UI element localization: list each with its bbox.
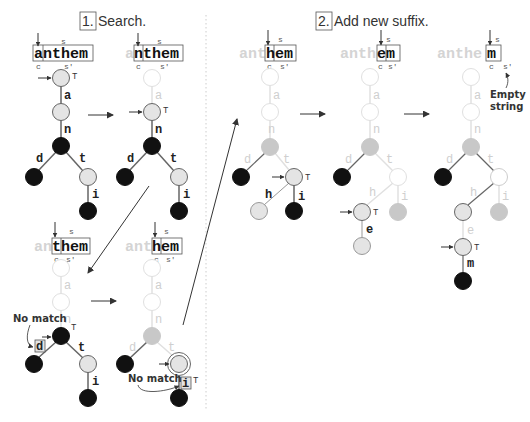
- trie-node: [262, 104, 279, 121]
- edge-label-m: m: [467, 257, 474, 271]
- edge-label-i: i: [92, 188, 99, 202]
- trie-node: [390, 204, 407, 221]
- trie-node: [455, 239, 472, 256]
- active-word: m: [487, 46, 496, 63]
- trie-node: [390, 169, 407, 186]
- trie-node-root: [262, 69, 279, 86]
- active-word: hem: [152, 239, 179, 256]
- edge-label-a: a: [64, 279, 71, 293]
- trie-node-root: [144, 70, 161, 87]
- active-word: hem: [266, 46, 293, 63]
- trie-node-terminal: [26, 356, 43, 373]
- active-word: em: [377, 46, 395, 63]
- edge-label-a: a: [64, 89, 71, 103]
- edge-label-i: i: [182, 377, 189, 391]
- step2-label: Add new suffix.: [334, 13, 429, 29]
- panel-add-3: s anthe m c s' Empty string a n d t h i …: [435, 30, 527, 290]
- s-pointer-label: s: [164, 227, 169, 236]
- panel-search-1: s anthem c s' a n d t i T: [26, 33, 100, 220]
- trie-node-terminal: [80, 203, 97, 220]
- trie-node-new: [251, 203, 268, 220]
- edge-label-n: n: [373, 123, 380, 137]
- trie-node-terminal: [171, 203, 188, 220]
- edge-label-h: h: [470, 186, 477, 200]
- edge-label-a: a: [474, 89, 481, 103]
- consumed-prefix: a: [125, 46, 134, 63]
- edge-label-e: e: [467, 224, 474, 238]
- edge-label-n: n: [155, 123, 162, 137]
- trie-node-root: [362, 69, 379, 86]
- t-pointer-label: T: [373, 208, 379, 218]
- panel-search-3: s an them c s' a n d t i T No match: [13, 222, 99, 407]
- step1-title: 1. Search.: [80, 12, 146, 30]
- active-word: nthem: [134, 46, 179, 63]
- edge-label-e: e: [366, 223, 373, 237]
- trie-node-terminal: [233, 169, 250, 186]
- consumed-prefix: ant: [239, 46, 266, 63]
- consumed-prefix: an: [34, 239, 52, 256]
- trie-node-terminal: [53, 138, 70, 155]
- callout-arrow-icon: [506, 73, 508, 88]
- edge-label-d: d: [446, 153, 453, 167]
- trie-node: [286, 169, 303, 186]
- trie-node-terminal: [286, 203, 303, 220]
- s-prime-pointer-label: s': [503, 62, 513, 71]
- s-pointer-label: s: [386, 35, 391, 44]
- empty-string-note-line1: Empty: [490, 89, 526, 100]
- trie-node: [362, 139, 379, 156]
- step1-label: Search.: [98, 13, 146, 29]
- step2-title: 2. Add new suffix.: [316, 12, 429, 30]
- trie-node-root: [463, 69, 480, 86]
- trie-node: [354, 204, 371, 221]
- trie-node-root: [53, 70, 70, 87]
- trie-node: [491, 204, 508, 221]
- s-prime-pointer-label: s': [160, 62, 170, 71]
- trie-node: [463, 104, 480, 121]
- trie-node: [80, 169, 97, 186]
- edge-label-i: i: [401, 190, 408, 204]
- edge-label-t: t: [78, 341, 85, 355]
- t-pointer-label: T: [474, 243, 480, 253]
- s-prime-pointer-label: s': [166, 255, 176, 264]
- edge-label-a: a: [155, 279, 162, 293]
- trie-node: [455, 204, 472, 221]
- edge-label-a: a: [273, 89, 280, 103]
- t-pointer-label: T: [193, 376, 199, 386]
- t-pointer-label: T: [71, 323, 77, 333]
- edge-label-t: t: [168, 341, 175, 355]
- edge-label-n: n: [155, 313, 162, 327]
- trie-node: [144, 294, 161, 311]
- edge-label-d: d: [129, 341, 136, 355]
- edge-label-d: d: [36, 340, 43, 354]
- edge-label-i: i: [502, 190, 509, 204]
- trie-node-terminal: [144, 138, 161, 155]
- trie-node: [171, 356, 188, 373]
- panel-search-4: s ant hem c s' a n d t i T No match: [117, 222, 200, 407]
- trie-node-terminal: [171, 390, 188, 407]
- panel-search-2: s a nthem c s' a n d t i T: [117, 33, 191, 220]
- edge-label-t: t: [170, 152, 177, 166]
- s-prime-pointer-label: s': [388, 62, 398, 71]
- s-prime-pointer-label: s': [64, 62, 74, 71]
- s-pointer-label: s: [495, 35, 500, 44]
- edge-label-i: i: [298, 190, 305, 204]
- no-match-note: No match: [128, 373, 182, 384]
- trie-node: [262, 139, 279, 156]
- trie-node: [362, 104, 379, 121]
- trie-node-terminal-new: [455, 273, 472, 290]
- edge-label-d: d: [244, 153, 251, 167]
- consumed-prefix: anth: [340, 46, 376, 63]
- edge-label-n: n: [268, 123, 275, 137]
- no-match-note: No match: [13, 313, 67, 324]
- trie-node: [80, 356, 97, 373]
- edge-label-d: d: [127, 152, 134, 166]
- trie-node-terminal: [334, 169, 351, 186]
- t-pointer-label: T: [72, 72, 78, 82]
- edge-label-d: d: [345, 153, 352, 167]
- trie-node: [144, 328, 161, 345]
- edge-label-a: a: [155, 89, 162, 103]
- c-pointer-label: c: [136, 62, 141, 71]
- edge-label-t: t: [79, 152, 86, 166]
- step-arrow-icon: [183, 119, 237, 325]
- callout-arrow-icon: [27, 325, 33, 347]
